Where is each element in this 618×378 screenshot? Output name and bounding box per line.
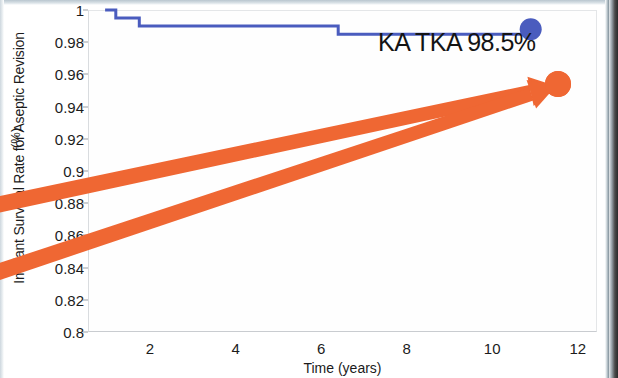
y-axis-tick-mark <box>83 267 88 268</box>
ka-tka-survival-label: KA TKA 98.5% <box>378 28 536 57</box>
x-axis-tick-label: 4 <box>216 340 256 357</box>
y-axis-tick-label: 0.9 <box>24 163 84 180</box>
y-axis-tick-mark <box>83 171 88 172</box>
y-axis-tick-mark <box>83 74 88 75</box>
plot-area <box>88 10 597 332</box>
y-axis-tick-label: 0.94 <box>24 98 84 115</box>
y-axis-tick-mark <box>83 106 88 107</box>
y-axis-tick-mark <box>83 235 88 236</box>
y-axis-tick-label: 0.84 <box>24 259 84 276</box>
y-axis-tick-label: 0.88 <box>24 195 84 212</box>
figure-screenshot: Implant Survival Rate for Aseptic Revisi… <box>0 0 618 378</box>
page-edge-top <box>0 0 618 5</box>
page-edge-right <box>609 0 618 378</box>
x-axis-title: Time (years) <box>88 360 597 376</box>
y-axis-tick-label: 1 <box>24 2 84 19</box>
y-axis-unit-label: (%) <box>8 128 23 148</box>
y-axis-tick-mark <box>83 299 88 300</box>
y-axis-tick-mark <box>83 42 88 43</box>
y-axis-tick-label: 0.8 <box>24 324 84 341</box>
y-axis-tick-label: 0.96 <box>24 66 84 83</box>
y-axis-tick-label: 0.82 <box>24 291 84 308</box>
y-axis-tick-label: 0.92 <box>24 130 84 147</box>
y-axis-tick-label: 0.86 <box>24 227 84 244</box>
x-axis-tick-label: 6 <box>301 340 341 357</box>
y-axis-tick-label: 0.98 <box>24 34 84 51</box>
x-axis-tick-label: 8 <box>387 340 427 357</box>
x-axis-tick-label: 12 <box>558 340 598 357</box>
y-axis-tick-mark <box>83 10 88 11</box>
y-axis-tick-mark <box>83 332 88 333</box>
x-axis-tick-label: 10 <box>472 340 512 357</box>
x-axis-tick-label: 2 <box>130 340 170 357</box>
page-edge-left <box>0 0 4 378</box>
y-axis-tick-mark <box>83 138 88 139</box>
y-axis-tick-mark <box>83 203 88 204</box>
